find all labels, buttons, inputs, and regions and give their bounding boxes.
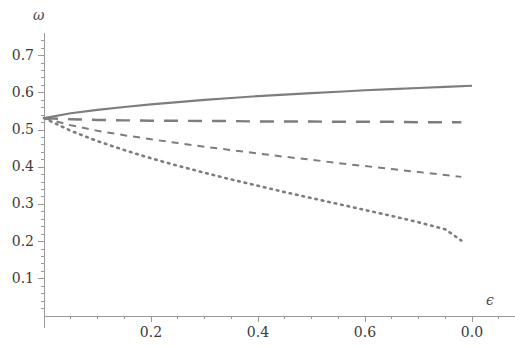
y-tick-label: 0.5 bbox=[0, 121, 34, 137]
y-tick-label: 0.1 bbox=[0, 270, 34, 286]
y-tick-label: 0.7 bbox=[0, 47, 34, 63]
series-line-dotted bbox=[44, 118, 461, 240]
series-layer bbox=[44, 86, 472, 241]
x-tick-label: 0.0 bbox=[455, 324, 489, 340]
y-tick-label: 0.4 bbox=[0, 158, 34, 174]
x-axis-label: ϵ bbox=[486, 292, 494, 308]
x-tick-label: 0.6 bbox=[348, 324, 382, 340]
x-tick-label: 0.2 bbox=[134, 324, 168, 340]
chart-figure: 0.20.40.60.00.10.20.30.40.50.60.7 ω ϵ bbox=[0, 0, 515, 347]
y-axis-label: ω bbox=[33, 7, 44, 23]
series-line-medium-dashed bbox=[44, 118, 461, 177]
series-line-solid bbox=[44, 86, 472, 118]
axes-layer bbox=[38, 33, 515, 328]
y-tick-label: 0.3 bbox=[0, 195, 34, 211]
x-tick-label: 0.4 bbox=[241, 324, 275, 340]
y-tick-label: 0.6 bbox=[0, 84, 34, 100]
chart-canvas bbox=[0, 0, 515, 347]
series-line-long-dashed bbox=[44, 118, 461, 122]
y-tick-label: 0.2 bbox=[0, 233, 34, 249]
